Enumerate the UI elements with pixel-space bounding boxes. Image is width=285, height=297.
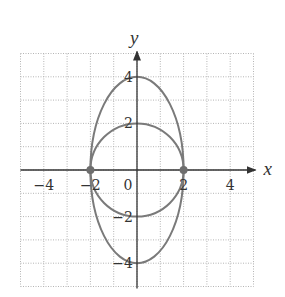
y-tick-label: 2 (124, 115, 133, 131)
x-tick-label: 2 (179, 177, 188, 193)
y-tick-label: 4 (124, 69, 133, 85)
axes (21, 52, 256, 289)
x-tick-label: 4 (226, 177, 235, 193)
x-tick-label: −2 (80, 177, 101, 193)
data-point (86, 166, 94, 174)
x-axis-label: x (263, 158, 273, 179)
data-point (180, 166, 188, 174)
y-tick-label: −2 (112, 209, 133, 225)
chart-plot: −4−202442−2−4 x y (0, 0, 285, 297)
x-tick-label: −4 (33, 177, 54, 193)
x-tick-label: 0 (124, 177, 133, 193)
y-axis-label: y (128, 27, 139, 48)
y-tick-label: −4 (112, 255, 133, 271)
